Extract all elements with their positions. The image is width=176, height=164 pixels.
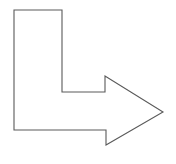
elbow-arrow-svg: [0, 0, 176, 164]
drawing-canvas: [0, 0, 176, 164]
